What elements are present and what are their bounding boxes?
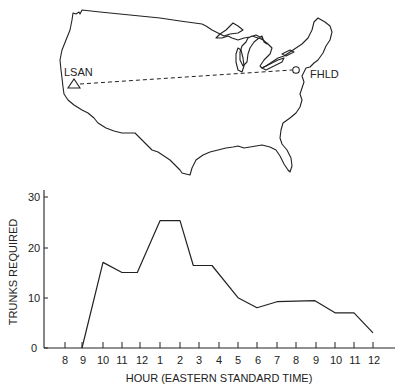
x-ticks bbox=[65, 342, 373, 348]
x-tick-label: 12 bbox=[136, 354, 148, 366]
y-tick-label: 20 bbox=[28, 242, 40, 254]
triangle-icon bbox=[68, 79, 80, 88]
x-tick-label: 7 bbox=[274, 354, 280, 366]
x-tick-label: 6 bbox=[255, 354, 261, 366]
x-tick-labels: 8 9 10 11 12 1 2 3 4 5 6 7 8 9 10 11 12 bbox=[62, 354, 380, 366]
x-tick-label: 2 bbox=[177, 354, 183, 366]
x-tick-label: 3 bbox=[196, 354, 202, 366]
chart: 0 10 20 30 8 9 10 bbox=[7, 190, 395, 384]
series-line bbox=[82, 221, 373, 348]
lake-erie bbox=[262, 58, 284, 70]
x-tick-label: 4 bbox=[216, 354, 222, 366]
x-tick-label: 12 bbox=[368, 354, 380, 366]
y-axis-title: TRUNKS REQUIRED bbox=[7, 219, 19, 325]
x-tick-label: 10 bbox=[330, 354, 342, 366]
y-tick-labels: 0 10 20 30 bbox=[28, 191, 40, 354]
x-tick-label: 1 bbox=[157, 354, 163, 366]
x-tick-label: 8 bbox=[293, 354, 299, 366]
x-tick-label: 11 bbox=[116, 354, 127, 366]
x-tick-label: 9 bbox=[80, 354, 86, 366]
x-tick-label: 5 bbox=[235, 354, 241, 366]
us-map bbox=[60, 10, 332, 175]
x-tick-label: 11 bbox=[349, 354, 360, 366]
figure: LSAN FHLD 0 10 20 30 bbox=[0, 0, 405, 390]
y-tick-label: 10 bbox=[28, 292, 40, 304]
route-line bbox=[80, 70, 292, 84]
x-tick-label: 8 bbox=[62, 354, 68, 366]
x-tick-label: 10 bbox=[97, 354, 109, 366]
y-ticks bbox=[44, 197, 48, 348]
x-axis-title: HOUR (EASTERN STANDARD TIME) bbox=[126, 372, 313, 384]
y-tick-label: 0 bbox=[31, 342, 37, 354]
x-tick-label: 9 bbox=[313, 354, 319, 366]
origin-label: LSAN bbox=[64, 66, 93, 78]
us-outline bbox=[60, 10, 332, 175]
destination-label: FHLD bbox=[310, 68, 339, 80]
circle-icon bbox=[293, 67, 300, 74]
y-tick-label: 30 bbox=[28, 191, 40, 203]
